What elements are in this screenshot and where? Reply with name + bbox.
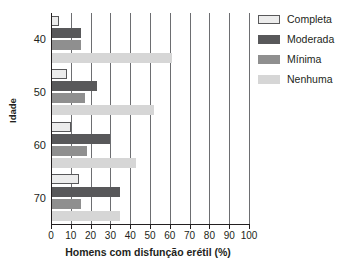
chart-legend: CompletaModeradaMínimaNenhuma (258, 10, 348, 90)
x-tick-0 (51, 224, 52, 229)
bar-moderada-60 (51, 134, 110, 144)
x-tick-90 (229, 224, 230, 229)
bar-nenhuma-70 (51, 211, 120, 221)
x-tick-100 (249, 224, 250, 229)
x-tick-60 (170, 224, 171, 229)
bar-group-70 (51, 174, 249, 221)
y-tick-label-60: 60 (16, 139, 46, 151)
bar-group-60 (51, 122, 249, 169)
y-axis-line (51, 13, 52, 225)
legend-item-nenhuma: Nenhuma (258, 70, 348, 88)
bar-moderada-40 (51, 28, 81, 38)
legend-swatch-completa (258, 15, 280, 24)
bar-minima-40 (51, 40, 81, 50)
bar-group-50 (51, 69, 249, 116)
y-axis-title: Idade (7, 81, 18, 141)
bar-completa-70 (51, 174, 79, 184)
legend-label-nenhuma: Nenhuma (287, 73, 333, 85)
legend-swatch-moderada (258, 35, 280, 44)
bar-moderada-70 (51, 187, 120, 197)
legend-label-moderada: Moderada (287, 33, 334, 45)
bar-chart: 40506070 Idade 0102030405060708090100 Ho… (0, 0, 348, 265)
x-tick-50 (150, 224, 151, 229)
bar-minima-70 (51, 199, 81, 209)
bar-nenhuma-40 (51, 53, 172, 63)
legend-label-minima: Mínima (287, 53, 321, 65)
x-tick-80 (209, 224, 210, 229)
legend-item-completa: Completa (258, 10, 348, 28)
bar-minima-60 (51, 146, 87, 156)
plot-area (51, 13, 249, 224)
x-tick-70 (190, 224, 191, 229)
y-tick-label-40: 40 (16, 33, 46, 45)
x-axis-title: Homens com disfunção erétil (%) (0, 246, 296, 258)
bar-completa-50 (51, 69, 67, 79)
x-tick-20 (91, 224, 92, 229)
bar-nenhuma-50 (51, 105, 154, 115)
legend-swatch-nenhuma (258, 75, 280, 84)
x-tick-30 (110, 224, 111, 229)
x-tick-40 (130, 224, 131, 229)
gridline-100 (249, 13, 250, 224)
legend-swatch-minima (258, 55, 280, 64)
legend-item-moderada: Moderada (258, 30, 348, 48)
bar-moderada-50 (51, 81, 97, 91)
bar-completa-40 (51, 16, 59, 26)
bar-completa-60 (51, 122, 71, 132)
bar-nenhuma-60 (51, 158, 136, 168)
legend-label-completa: Completa (287, 13, 332, 25)
x-tick-label-100: 100 (234, 230, 264, 242)
bar-group-40 (51, 16, 249, 63)
bar-minima-50 (51, 93, 85, 103)
x-tick-10 (71, 224, 72, 229)
y-tick-label-70: 70 (16, 192, 46, 204)
legend-item-minima: Mínima (258, 50, 348, 68)
y-tick-label-50: 50 (16, 86, 46, 98)
